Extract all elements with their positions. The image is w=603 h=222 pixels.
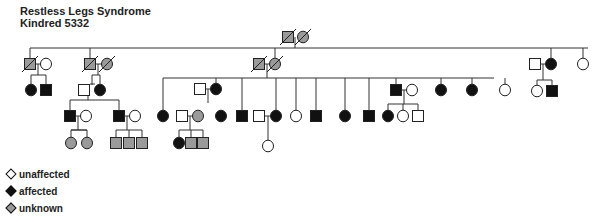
male-affected-icon xyxy=(547,86,558,97)
male-unknown-icon xyxy=(186,138,197,149)
diamond-unknown-icon xyxy=(5,202,16,213)
female-affected-icon xyxy=(467,84,478,96)
female-unaffected-icon xyxy=(291,110,302,122)
legend-label: affected xyxy=(19,186,57,197)
male-unknown-icon xyxy=(137,138,148,149)
female-unaffected-icon xyxy=(407,84,418,96)
male-affected-icon xyxy=(364,111,375,122)
legend-item-affected: affected xyxy=(4,183,70,199)
female-affected-icon xyxy=(383,110,394,122)
female-unaffected-icon xyxy=(263,140,274,152)
male-unaffected-icon xyxy=(530,59,541,70)
male-unaffected-icon xyxy=(195,84,206,95)
female-affected-icon xyxy=(211,83,222,95)
female-unknown-icon xyxy=(66,137,77,149)
male-affected-icon xyxy=(41,85,52,96)
legend-item-unknown: unknown xyxy=(4,200,70,216)
female-affected-icon xyxy=(546,58,557,70)
female-unknown-icon xyxy=(193,110,204,122)
female-affected-icon xyxy=(340,110,351,122)
female-unaffected-icon xyxy=(130,110,141,122)
diamond-unaffected-icon xyxy=(5,168,16,179)
female-unaffected-icon xyxy=(532,85,543,97)
female-unaffected-icon xyxy=(41,58,52,70)
female-affected-icon xyxy=(95,84,106,96)
female-affected-icon xyxy=(436,84,447,96)
male-unknown-icon xyxy=(198,138,209,149)
diamond-affected-icon xyxy=(5,185,16,196)
female-unknown-icon xyxy=(82,137,93,149)
male-affected-icon xyxy=(114,111,125,122)
legend-label: unknown xyxy=(19,203,63,214)
female-unaffected-icon xyxy=(398,110,409,122)
female-affected-icon xyxy=(26,84,37,96)
female-unaffected-icon xyxy=(81,110,92,122)
male-affected-icon xyxy=(65,111,76,122)
pedigree-diagram xyxy=(0,0,603,222)
male-unaffected-icon xyxy=(413,111,424,122)
male-unaffected-icon xyxy=(177,111,188,122)
female-affected-icon xyxy=(271,110,282,122)
legend-label: unaffected xyxy=(19,169,70,180)
female-unaffected-icon xyxy=(578,58,589,70)
female-unaffected-icon xyxy=(500,84,511,96)
legend-item-unaffected: unaffected xyxy=(4,166,70,182)
female-affected-icon xyxy=(216,110,227,122)
male-affected-icon xyxy=(391,85,402,96)
male-unaffected-icon xyxy=(254,111,265,122)
female-affected-icon xyxy=(158,110,169,122)
male-unaffected-icon xyxy=(79,85,90,96)
female-affected-icon xyxy=(174,137,185,149)
male-affected-icon xyxy=(311,111,322,122)
legend: unaffected affected unknown xyxy=(4,166,70,217)
male-unknown-icon xyxy=(124,138,135,149)
male-unknown-icon xyxy=(111,138,122,149)
male-affected-icon xyxy=(237,111,248,122)
